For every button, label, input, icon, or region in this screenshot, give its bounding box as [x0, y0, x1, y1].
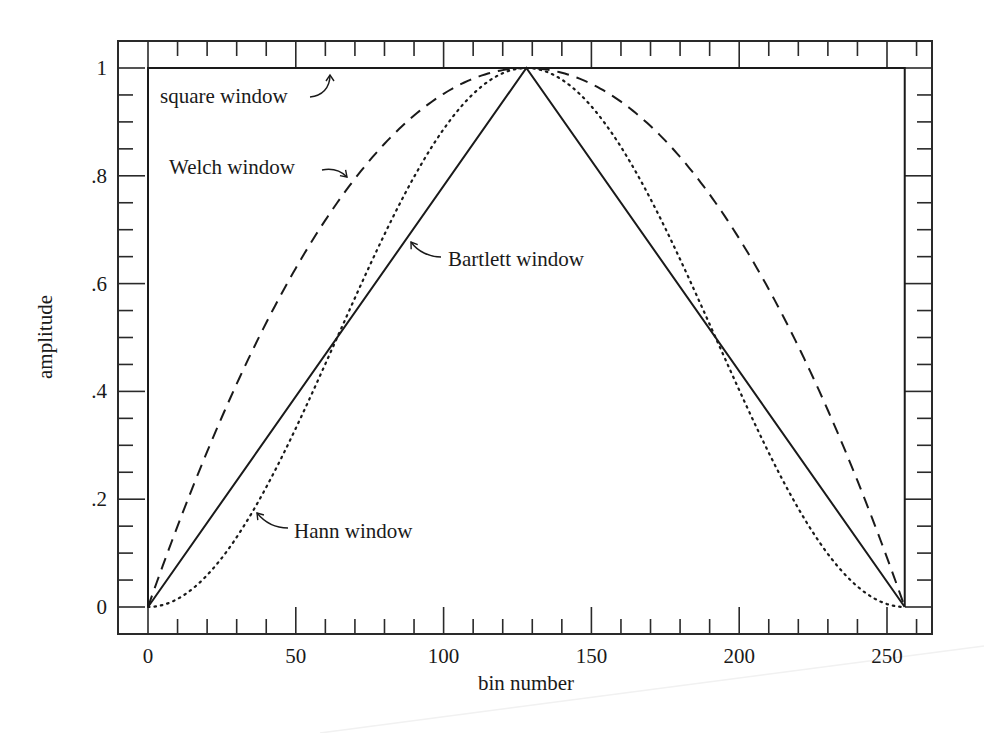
x-tick-label: 0 [143, 644, 154, 668]
hann-window-line [148, 68, 905, 607]
x-axis-ticks [148, 41, 917, 634]
y-tick-label: 0 [97, 595, 108, 619]
welch-window-annotation: Welch window [169, 155, 350, 180]
y-axis-title: amplitude [33, 295, 57, 379]
square-window-annotation: square window [160, 75, 334, 108]
annotation-label: Welch window [169, 155, 296, 179]
y-tick-label: .6 [91, 272, 107, 296]
bartlett-window-annotation: Bartlett window [408, 240, 585, 271]
bartlett-window-line [148, 68, 905, 607]
annotation-label: Hann window [294, 519, 413, 543]
y-axis-ticks [118, 68, 932, 607]
arrow-icon [257, 513, 288, 528]
x-tick-label: 200 [723, 644, 755, 668]
welch-window-line [148, 68, 905, 607]
annotation-label: square window [160, 84, 289, 108]
y-tick-label: .8 [91, 164, 107, 188]
square-window-line [148, 68, 905, 607]
x-tick-label: 150 [576, 644, 608, 668]
window-functions-chart: 050100150200250 0.2.4.6.81 square window… [0, 0, 984, 733]
x-tick-label: 250 [871, 644, 903, 668]
y-tick-label: 1 [97, 56, 108, 80]
hann-window-annotation: Hann window [254, 510, 413, 543]
x-axis-title: bin number [478, 671, 574, 695]
x-tick-label: 50 [285, 644, 306, 668]
plot-frame [118, 41, 932, 634]
y-axis-tick-labels: 0.2.4.6.81 [91, 56, 107, 619]
annotations: square windowWelch windowBartlett window… [160, 75, 585, 543]
series-lines [148, 68, 905, 607]
plot-border [118, 41, 932, 634]
annotation-label: Bartlett window [448, 247, 585, 271]
x-tick-label: 100 [428, 644, 460, 668]
y-tick-label: .4 [91, 379, 107, 403]
y-tick-label: .2 [91, 487, 107, 511]
x-axis-tick-labels: 050100150200250 [143, 644, 903, 668]
